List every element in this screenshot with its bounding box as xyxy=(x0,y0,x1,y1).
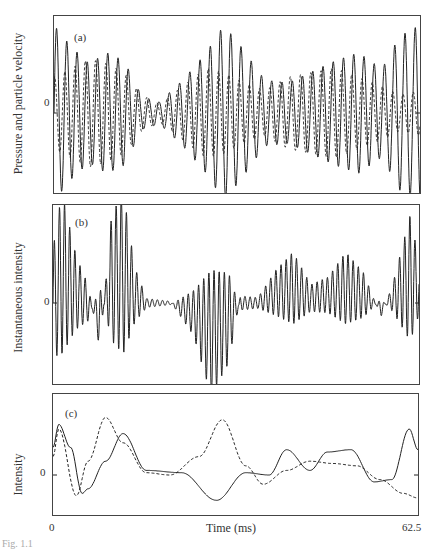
ylabel-c: Intensity xyxy=(11,445,26,505)
zero-label-a: 0 xyxy=(44,96,50,108)
pressure-velocity-plot xyxy=(54,16,420,193)
xtick-min: 0 xyxy=(49,521,55,533)
intensity-plot xyxy=(53,394,418,515)
zero-label-c: 0 xyxy=(40,466,46,478)
zero-label-b: 0 xyxy=(44,295,50,307)
panel-c: (c) xyxy=(52,393,419,516)
xaxis-label: Time (ms) xyxy=(206,521,256,536)
panel-b: (b) xyxy=(52,204,420,385)
panel-a: (a) xyxy=(53,15,421,194)
xtick-max: 62.5 xyxy=(402,521,421,533)
instantaneous-intensity-plot xyxy=(53,205,419,384)
figure-caption: Fig. 1.1 xyxy=(2,538,33,549)
ylabel-b: Instantaneous intensity xyxy=(11,218,26,378)
ylabel-a: Pressure and particle velocity xyxy=(11,14,26,194)
